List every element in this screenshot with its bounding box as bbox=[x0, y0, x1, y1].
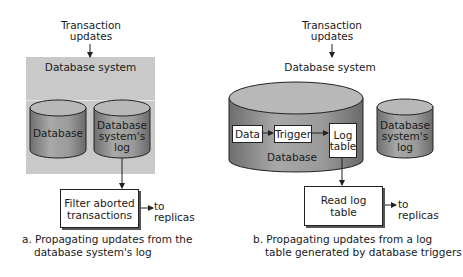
log-cylinder-label-a: Database system's log bbox=[94, 120, 150, 153]
caption-line: b. Propagating updates from a log bbox=[253, 233, 463, 246]
label-line: updates bbox=[296, 31, 368, 42]
label-line: log bbox=[377, 142, 433, 153]
caption-line: database system's log bbox=[22, 246, 222, 259]
transaction-updates-label-b: Transaction updates bbox=[296, 20, 368, 42]
label-line: log bbox=[94, 142, 150, 153]
label-line: table bbox=[330, 141, 357, 152]
read-log-table-box: Read log table bbox=[304, 186, 383, 226]
caption-line: table generated by database triggers bbox=[253, 246, 463, 259]
data-box: Data bbox=[232, 125, 263, 143]
to-replicas-label-b: to replicas bbox=[398, 199, 439, 221]
caption-line: a. Propagating updates from the bbox=[22, 233, 222, 246]
to-replicas-label-a: to replicas bbox=[154, 201, 195, 223]
label-line: Filter aborted bbox=[64, 197, 134, 209]
database-cylinder-label-a: Database bbox=[30, 128, 86, 139]
label-line: table bbox=[330, 206, 357, 218]
label-line: Log bbox=[334, 130, 353, 141]
label-line: Read log bbox=[321, 194, 367, 206]
label-line: transactions bbox=[67, 209, 132, 221]
filter-aborted-transactions-box: Filter aborted transactions bbox=[60, 189, 139, 228]
label-line: replicas bbox=[398, 210, 439, 221]
caption-a: a. Propagating updates from the database… bbox=[22, 233, 222, 259]
label-line: replicas bbox=[154, 212, 195, 223]
database-system-label-b: Database system bbox=[222, 62, 438, 73]
log-cylinder-label-b: Database system's log bbox=[377, 120, 433, 153]
database-cylinder-label-b: Database bbox=[262, 152, 322, 163]
log-table-box: Log table bbox=[329, 123, 357, 158]
trigger-box: Trigger bbox=[274, 125, 312, 143]
caption-b: b. Propagating updates from a log table … bbox=[253, 233, 463, 259]
